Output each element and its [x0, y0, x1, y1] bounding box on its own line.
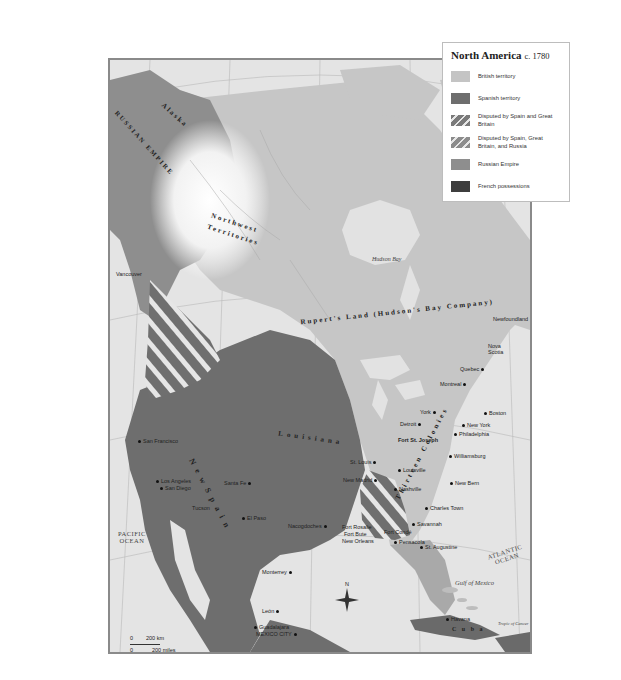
city-new-york: New York	[460, 423, 490, 429]
city-havana: Havana	[444, 617, 470, 623]
map-legend: North Americac. 1780 British territory S…	[442, 42, 570, 202]
city-nashville: Nashville	[392, 487, 421, 493]
city-new-orleans: New Orleans	[342, 539, 374, 545]
scale-line	[130, 644, 160, 645]
scale-zero-km: 0	[130, 636, 133, 642]
city-new-bern: New Bern	[448, 481, 479, 487]
swatch-french	[451, 181, 470, 192]
water-label-pacific-ocean: PACIFIC OCEAN	[118, 530, 146, 544]
city-montreal: Montreal	[440, 382, 468, 388]
swatch-disputed-spain-gb-russia	[451, 137, 470, 148]
city-santa-fe: Santa Fe	[224, 481, 253, 487]
region-label-cuba: C u b a	[452, 626, 485, 632]
city-fort-bute: Fort Bute	[344, 532, 367, 538]
city-el-paso: El Paso	[240, 516, 266, 522]
city-pensacola: Pensacola	[392, 540, 425, 546]
region-label-nova-scotia: Nova Scotia	[488, 344, 510, 355]
legend-item-british: British territory	[451, 68, 561, 85]
city-tucson: Tucson	[192, 506, 210, 512]
water-label-tropic-of-cancer: Tropic of Cancer	[498, 622, 529, 627]
legend-title: North Americac. 1780	[451, 49, 561, 61]
city-fort-conde: Fort Condé	[384, 530, 412, 536]
city-st-augustine: St. Augustine	[418, 545, 457, 551]
city-fort-st-joseph: Fort St. Joseph	[398, 438, 438, 444]
compass-north-label: N	[345, 582, 349, 588]
city-savannah: Savannah	[410, 522, 442, 528]
city-leon: León	[262, 609, 281, 615]
city-guadalajara: Guadalajara	[252, 625, 289, 631]
city-louisville: Louisville	[396, 468, 426, 474]
legend-year: c. 1780	[525, 51, 550, 61]
scale-km-label: 200 km	[146, 636, 164, 642]
city-detroit: Detroit	[400, 422, 423, 428]
city-vancouver: Vancouver	[116, 272, 142, 278]
city-san-diego: San Diego	[158, 486, 191, 492]
swatch-british	[451, 71, 470, 82]
city-philadelphia: Philadelphia	[452, 432, 489, 438]
city-fort-rosalie: Fort Rosalie	[342, 525, 372, 531]
city-charles-town: Charles Town	[423, 506, 463, 512]
legend-item-disputed-spain-gb-russia: Disputed by Spain, Great Britain, and Ru…	[451, 134, 561, 151]
scale-miles-label: 200 miles	[152, 648, 176, 654]
city-york: York	[420, 410, 438, 416]
swatch-disputed-spain-gb	[451, 115, 470, 126]
swatch-russian	[451, 159, 470, 170]
city-san-francisco: San Francisco	[136, 439, 178, 445]
city-st-louis: St. Louis	[350, 460, 378, 466]
water-label-hudson-bay: Hudson Bay	[372, 256, 402, 262]
swatch-spanish	[451, 93, 470, 104]
city-boston: Boston	[482, 411, 506, 417]
city-nacogdoches: Nacogdoches	[288, 524, 329, 530]
city-williamsburg: Williamsburg	[447, 454, 485, 460]
legend-item-disputed-spain-gb: Disputed by Spain and Great Britain	[451, 112, 561, 129]
city-mexico-city: MEXICO CITY	[256, 632, 299, 638]
region-label-newfoundland: Newfoundland	[493, 317, 528, 323]
city-monterrey: Monterrey	[262, 570, 294, 576]
city-los-angeles: Los Angeles	[154, 479, 191, 485]
city-quebec: Quebec	[460, 367, 486, 373]
pacific-ocean-text: PACIFIC OCEAN	[118, 530, 146, 544]
scale-zero-miles: 0	[130, 648, 133, 654]
city-new-madrid: New Madrid	[343, 478, 379, 484]
legend-item-russian: Russian Empire	[451, 156, 561, 173]
legend-item-spanish: Spanish territory	[451, 90, 561, 107]
water-label-gulf-of-mexico: Gulf of Mexico	[455, 580, 494, 587]
legend-item-french: French possessions	[451, 178, 561, 195]
